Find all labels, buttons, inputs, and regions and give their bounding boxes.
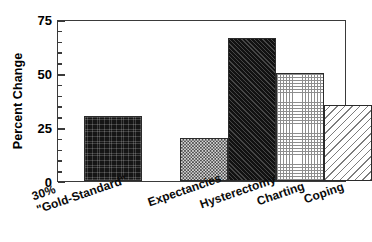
y-tick-minor-70	[58, 31, 62, 33]
y-tick-major-50	[58, 74, 65, 76]
y-tick-minor-15	[58, 150, 62, 152]
y-tick-minor-65	[58, 42, 62, 44]
bar-expectancies	[180, 138, 228, 181]
y-tick-minor-35	[58, 106, 62, 108]
y-tick-label-50: 50	[18, 68, 52, 81]
y-tick-minor-10	[58, 160, 62, 162]
x-label-coping: Coping	[302, 180, 346, 207]
y-tick-major-25	[58, 128, 65, 130]
y-tick-minor-55	[58, 63, 62, 65]
plot-area	[57, 20, 346, 182]
bar-charting	[276, 73, 324, 181]
y-tick-minor-60	[58, 52, 62, 54]
y-tick-label-25: 25	[18, 122, 52, 135]
y-tick-minor-20	[58, 139, 62, 141]
y-tick-minor-40	[58, 96, 62, 98]
y-tick-minor-45	[58, 85, 62, 87]
y-tick-label-75: 75	[18, 14, 52, 27]
bar-coping	[324, 105, 372, 181]
y-tick-minor-30	[58, 117, 62, 119]
y-tick-major-75	[58, 20, 65, 22]
x-label-coping-text: Coping	[302, 180, 346, 207]
bar-hysterectomy	[228, 38, 276, 181]
y-tick-minor-5	[58, 171, 62, 173]
